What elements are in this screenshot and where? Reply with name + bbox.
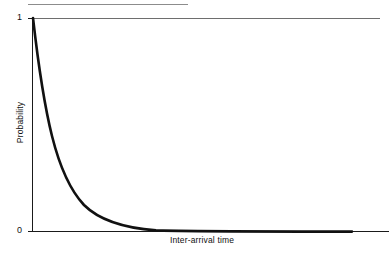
exponential-decay-curve <box>33 18 352 232</box>
curve-canvas <box>0 0 389 256</box>
chart-figure: 1 0 Probability Inter-arrival time <box>0 0 389 256</box>
